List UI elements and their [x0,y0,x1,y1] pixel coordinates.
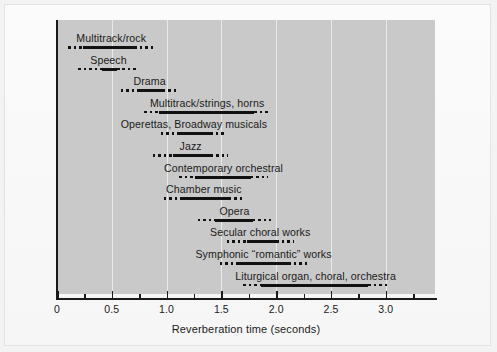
bar-label: Drama [133,75,165,87]
tick-label-1.5: 1.5 [201,303,241,315]
tick-minor-2.75 [358,294,360,299]
tick-major-2.0 [276,291,278,299]
reverberation-time-chart: Multitrack/rockSpeechDramaMultitrack/str… [0,0,497,352]
tick-major-1.0 [167,291,169,299]
y-axis-line [56,20,58,300]
tick-label-2.5: 2.5 [311,303,351,315]
bar-label: Contemporary orchestral [164,162,283,174]
tick-minor-2.25 [304,294,306,299]
bar-label: Multitrack/strings, horns [150,97,264,109]
x-axis-label: Reverberation time (seconds) [57,323,435,335]
bar-fade-left [243,284,261,287]
bar-label: Multitrack/rock [76,32,146,44]
tick-label-0: 0 [37,303,77,315]
bar-label: Opera [220,205,250,217]
tick-minor-1.75 [249,294,251,299]
bar-fade-right [368,284,388,287]
bar-label: Symphonic “romantic” works [195,248,331,260]
tick-label-2.0: 2.0 [256,303,296,315]
tick-label-1.0: 1.0 [147,303,187,315]
bar-label: Speech [90,54,127,66]
bar-core [261,284,368,287]
tick-minor-1.25 [194,294,196,299]
tick-major-2.5 [331,291,333,299]
bar-label: Liturgical organ, choral, orchestra [235,270,396,282]
bar-label: Jazz [180,140,202,152]
chart-row: Liturgical organ, choral, orchestra [0,264,497,290]
tick-minor-0.75 [139,294,141,299]
tick-label-3.0: 3.0 [366,303,406,315]
plot-wrapper: Multitrack/rockSpeechDramaMultitrack/str… [0,0,497,352]
tick-major-3.0 [386,291,388,299]
tick-minor-3.25 [413,294,415,299]
bar-label: Chamber music [166,183,241,195]
tick-major-0.5 [112,291,114,299]
bar-label: Operettas, Broadway musicals [121,118,267,130]
tick-major-0 [57,291,59,299]
bar-label: Secular choral works [210,226,310,238]
tick-minor-0.25 [84,294,86,299]
tick-major-1.5 [221,291,223,299]
tick-label-0.5: 0.5 [92,303,132,315]
